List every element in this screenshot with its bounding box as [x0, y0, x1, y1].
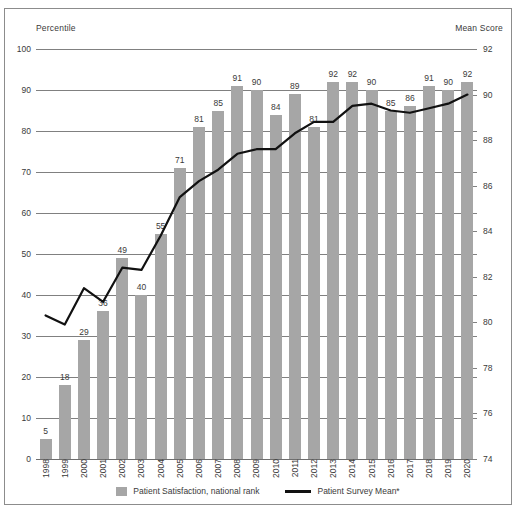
y-tick-right-88: 88	[483, 135, 492, 145]
y-tick-left-40: 40	[22, 290, 31, 300]
y-tick-right-82: 82	[483, 272, 492, 282]
x-axis-label-2013: 2013	[328, 459, 338, 478]
bar-swatch-icon	[116, 487, 127, 496]
x-axis-label-1998: 1998	[41, 459, 51, 478]
x-axis-label-2008: 2008	[232, 459, 242, 478]
y-tick-left-10: 10	[22, 413, 31, 423]
y-tick-right-92: 92	[483, 44, 492, 54]
x-axis-label-2000: 2000	[79, 459, 89, 478]
x-axis-label-2001: 2001	[98, 459, 108, 478]
x-axis-label-2007: 2007	[213, 459, 223, 478]
x-axis-label-2018: 2018	[424, 459, 434, 478]
x-axis-label-2012: 2012	[309, 459, 319, 478]
y-tick-right-90: 90	[483, 90, 492, 100]
legend-line-label: Patient Survey Mean*	[317, 486, 399, 496]
y-tick-left-50: 50	[22, 249, 31, 259]
x-axis-label-2017: 2017	[405, 459, 415, 478]
x-axis-label-2016: 2016	[386, 459, 396, 478]
y-tick-left-90: 90	[22, 85, 31, 95]
legend-item-bar: Patient Satisfaction, national rank	[116, 486, 259, 496]
y-tick-left-80: 80	[22, 126, 31, 136]
left-axis-caption: Percentile	[36, 23, 76, 33]
x-axis-label-2020: 2020	[462, 459, 472, 478]
line-series-patient-survey-mean	[36, 49, 477, 459]
x-axis-label-1999: 1999	[60, 459, 70, 478]
chart-legend: Patient Satisfaction, national rank Pati…	[5, 486, 511, 496]
y-tick-left-70: 70	[22, 167, 31, 177]
y-tick-left-100: 100	[17, 44, 31, 54]
x-axis-label-2002: 2002	[117, 459, 127, 478]
y-tick-right-74: 74	[483, 454, 492, 464]
y-tick-left-30: 30	[22, 331, 31, 341]
x-axis-label-2004: 2004	[156, 459, 166, 478]
right-axis-caption: Mean Score	[455, 23, 503, 33]
x-axis-label-2006: 2006	[194, 459, 204, 478]
y-tick-left-0: 0	[26, 454, 31, 464]
x-axis-label-2014: 2014	[347, 459, 357, 478]
y-tick-right-76: 76	[483, 408, 492, 418]
legend-item-line: Patient Survey Mean*	[285, 486, 399, 496]
chart-frame: Percentile Mean Score 010203040506070809…	[4, 8, 512, 505]
legend-bar-label: Patient Satisfaction, national rank	[133, 486, 259, 496]
x-axis-label-2009: 2009	[251, 459, 261, 478]
x-axis-label-2010: 2010	[271, 459, 281, 478]
y-tick-right-84: 84	[483, 226, 492, 236]
y-tick-left-20: 20	[22, 372, 31, 382]
x-axis-label-2011: 2011	[290, 459, 300, 477]
line-swatch-icon	[285, 490, 311, 493]
x-axis-label-2019: 2019	[443, 459, 453, 478]
y-tick-right-86: 86	[483, 181, 492, 191]
x-axis-label-2003: 2003	[136, 459, 146, 478]
x-axis-label-2005: 2005	[175, 459, 185, 478]
chart-screenshot: Percentile Mean Score 010203040506070809…	[0, 0, 517, 512]
y-tick-left-60: 60	[22, 208, 31, 218]
x-axis-label-2015: 2015	[367, 459, 377, 478]
plot-area: 0102030405060708090100 74767880828486889…	[36, 49, 477, 459]
y-tick-right-80: 80	[483, 317, 492, 327]
y-tick-right-78: 78	[483, 363, 492, 373]
